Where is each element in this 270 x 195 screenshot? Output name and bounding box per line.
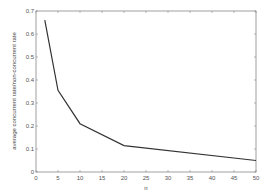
y-tick-label: 0.1 <box>26 146 35 152</box>
x-tick-label: 35 <box>187 175 194 181</box>
x-tick-label: 40 <box>209 175 216 181</box>
series-line <box>45 20 256 160</box>
x-tick-label: 45 <box>231 175 238 181</box>
x-axis: 05101520253035404550 <box>34 11 260 181</box>
x-tick-label: 15 <box>99 175 106 181</box>
y-tick-label: 0.5 <box>26 54 35 60</box>
y-tick-label: 0.3 <box>26 100 35 106</box>
y-tick-label: 0.7 <box>26 8 35 14</box>
x-tick-label: 50 <box>253 175 260 181</box>
x-tick-label: 10 <box>77 175 84 181</box>
x-axis-label: n <box>144 185 147 191</box>
y-tick-label: 0.4 <box>26 77 35 83</box>
x-tick-label: 30 <box>165 175 172 181</box>
y-axis: 00.10.20.30.40.50.60.7 <box>26 8 256 175</box>
x-tick-label: 0 <box>34 175 38 181</box>
line-chart: 05101520253035404550 00.10.20.30.40.50.6… <box>0 0 270 195</box>
y-tick-label: 0.2 <box>26 123 35 129</box>
y-axis-label: average concurrent rate/non-concurrent r… <box>11 31 17 149</box>
x-tick-label: 25 <box>143 175 150 181</box>
x-tick-label: 5 <box>56 175 60 181</box>
y-tick-label: 0.6 <box>26 31 35 37</box>
data-series <box>45 20 256 160</box>
x-tick-label: 20 <box>121 175 128 181</box>
